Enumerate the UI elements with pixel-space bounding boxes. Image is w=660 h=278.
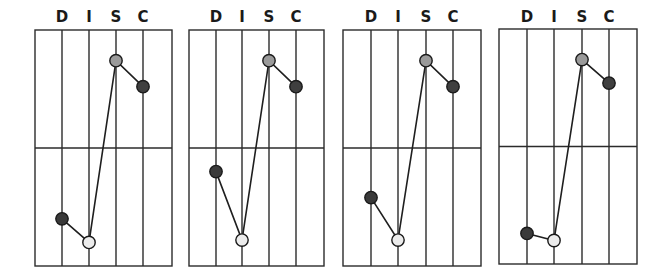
point-c bbox=[137, 80, 149, 92]
disc-chart-4: DISC bbox=[499, 8, 637, 264]
profile-line bbox=[62, 61, 143, 243]
point-s bbox=[420, 54, 432, 66]
disc-chart-1: DISC bbox=[35, 8, 172, 266]
point-i bbox=[392, 234, 404, 246]
axis-label-c: C bbox=[447, 8, 458, 26]
point-d bbox=[365, 191, 377, 203]
profile-line bbox=[216, 61, 296, 240]
profile-line bbox=[527, 60, 609, 241]
axis-label-s: S bbox=[111, 8, 122, 26]
point-s bbox=[110, 54, 122, 66]
point-i bbox=[548, 234, 560, 246]
axis-label-d: D bbox=[365, 8, 377, 26]
point-d bbox=[521, 227, 533, 239]
axis-label-i: I bbox=[395, 8, 401, 26]
disc-chart-3: DISC bbox=[343, 8, 481, 266]
point-d bbox=[210, 165, 222, 177]
point-i bbox=[83, 236, 95, 248]
point-s bbox=[576, 53, 588, 65]
point-c bbox=[447, 80, 459, 92]
profile-line bbox=[371, 61, 453, 240]
axis-label-c: C bbox=[290, 8, 301, 26]
axis-label-s: S bbox=[264, 8, 275, 26]
point-d bbox=[56, 213, 68, 225]
point-i bbox=[236, 234, 248, 246]
point-s bbox=[263, 54, 275, 66]
axis-label-c: C bbox=[137, 8, 148, 26]
point-c bbox=[603, 77, 615, 89]
axis-label-i: I bbox=[551, 8, 557, 26]
disc-chart-2: DISC bbox=[189, 8, 324, 266]
axis-label-i: I bbox=[239, 8, 245, 26]
point-c bbox=[290, 80, 302, 92]
disc-charts-canvas: DISCDISCDISCDISC bbox=[0, 0, 660, 278]
axis-label-c: C bbox=[603, 8, 614, 26]
axis-label-d: D bbox=[56, 8, 68, 26]
axis-label-d: D bbox=[521, 8, 533, 26]
axis-label-i: I bbox=[86, 8, 92, 26]
axis-label-s: S bbox=[577, 8, 588, 26]
axis-label-s: S bbox=[421, 8, 432, 26]
axis-label-d: D bbox=[210, 8, 222, 26]
